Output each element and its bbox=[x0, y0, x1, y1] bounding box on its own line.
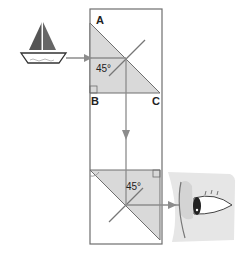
vertex-label-c: C bbox=[152, 95, 160, 107]
vertex-label-a: A bbox=[96, 14, 104, 26]
vertex-label-b: B bbox=[91, 95, 99, 107]
sailboat-icon bbox=[21, 22, 66, 63]
arrow-head-icon bbox=[122, 130, 130, 140]
angle-label-top: 45° bbox=[96, 63, 111, 74]
angle-label-bottom: 45° bbox=[126, 181, 141, 192]
periscope-diagram: A B C 45° 45° bbox=[0, 0, 237, 257]
